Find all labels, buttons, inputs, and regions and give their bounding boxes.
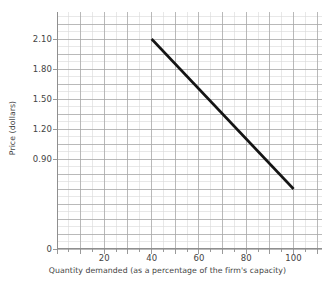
y-tick-label: 1.80 bbox=[33, 65, 52, 74]
y-tick-label: 1.20 bbox=[33, 125, 52, 134]
plot-area bbox=[57, 12, 322, 249]
y-tick-label: 2.10 bbox=[33, 35, 52, 44]
x-tick-label: 20 bbox=[99, 254, 110, 263]
y-tick-label: 0 bbox=[46, 245, 52, 254]
grid-and-series-svg bbox=[57, 12, 322, 249]
x-axis-tick-labels: 20406080100 bbox=[0, 254, 335, 266]
minor-gridlines bbox=[57, 12, 322, 249]
chart-container: 00.901.201.501.802.10 20406080100 Quanti… bbox=[0, 0, 335, 292]
x-tick-label: 40 bbox=[146, 254, 157, 263]
axis-lines bbox=[57, 12, 322, 249]
x-tick-label: 60 bbox=[193, 254, 204, 263]
major-gridlines bbox=[57, 12, 322, 249]
y-tick-label: 0.90 bbox=[33, 155, 52, 164]
y-tick-label: 1.50 bbox=[33, 95, 52, 104]
x-tick-label: 80 bbox=[241, 254, 252, 263]
x-tick-label: 100 bbox=[285, 254, 302, 263]
y-axis-title: Price (dollars) bbox=[8, 68, 18, 188]
x-axis-title: Quantity demanded (as a percentage of th… bbox=[0, 266, 335, 276]
